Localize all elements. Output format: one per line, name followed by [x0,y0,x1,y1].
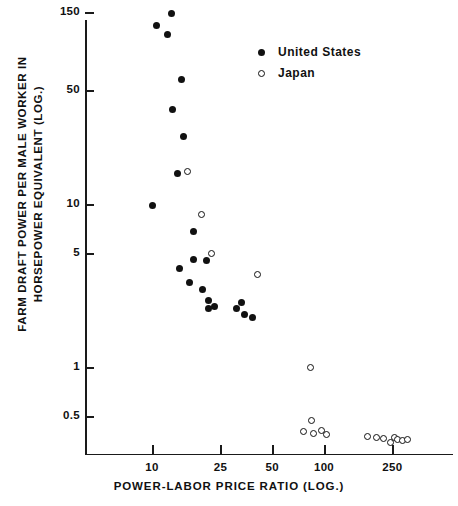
y-axis-line [85,20,87,455]
data-point-japan [307,364,314,371]
data-point-united-states [249,314,256,321]
x-tick-label: 10 [132,461,172,473]
y-tick-label: 1 [44,360,80,372]
data-point-united-states [153,22,160,29]
data-point-japan [308,417,315,424]
x-tick-mark [392,445,394,454]
data-point-united-states [211,303,218,310]
y-tick-mark [85,253,94,255]
y-tick-label: 0.5 [44,409,80,421]
data-point-united-states [178,76,185,83]
y-tick-mark [85,416,94,418]
x-axis-label: POWER-LABOR PRICE RATIO (LOG.) [0,480,458,492]
data-point-united-states [164,31,171,38]
data-point-japan [310,430,317,437]
data-point-united-states [199,286,206,293]
x-tick-label: 250 [372,461,412,473]
y-axis-label-line2: HORSEPOWER EQUIVALENT (LOG.) [30,26,46,362]
x-tick-mark [324,445,326,454]
x-tick-mark [272,445,274,454]
legend-item-japan: Japan [258,66,315,80]
data-point-united-states [176,265,183,272]
data-point-united-states [186,279,193,286]
legend-item-united-states: United States [258,45,361,59]
data-point-japan [300,428,307,435]
data-point-united-states [190,228,197,235]
y-tick-mark [85,367,94,369]
y-tick-label: 5 [44,246,80,258]
data-point-united-states [149,202,156,209]
legend-label-japan: Japan [278,66,315,80]
scatter-plot-figure: 1505010510.5 102550100250 United States … [0,0,458,506]
x-tick-label: 100 [304,461,344,473]
data-point-japan [364,433,371,440]
data-point-united-states [169,106,176,113]
data-point-united-states [174,170,181,177]
data-point-japan [198,211,205,218]
legend-label-united-states: United States [278,45,361,59]
legend-marker-filled-circle [258,49,265,56]
y-axis-label: FARM DRAFT POWER PER MALE WORKER IN HORS… [14,26,46,362]
y-axis-label-line1: FARM DRAFT POWER PER MALE WORKER IN [14,26,30,362]
data-point-japan [184,168,191,175]
data-point-japan [404,436,411,443]
data-point-japan [254,271,261,278]
data-point-japan [380,435,387,442]
data-point-japan [323,431,330,438]
data-point-united-states [203,257,210,264]
x-tick-label: 25 [200,461,240,473]
data-point-japan [373,434,380,441]
data-point-united-states [190,256,197,263]
data-point-united-states [180,133,187,140]
y-tick-mark [85,204,94,206]
y-tick-label: 10 [44,197,80,209]
data-point-united-states [238,299,245,306]
data-point-united-states [168,10,175,17]
x-tick-label: 50 [252,461,292,473]
y-tick-label: 150 [44,5,80,17]
legend-marker-open-circle [258,70,265,77]
data-point-united-states [241,311,248,318]
x-tick-mark [220,445,222,454]
x-axis-line [85,454,453,456]
data-point-japan [208,250,215,257]
y-tick-label: 50 [44,83,80,95]
y-tick-mark [85,12,94,14]
y-tick-mark [85,90,94,92]
x-tick-mark [152,445,154,454]
